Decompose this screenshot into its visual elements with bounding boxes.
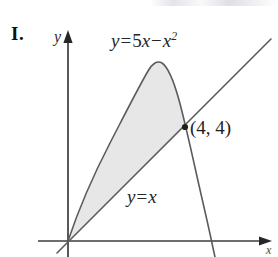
- parabola-eq-term-var: x: [163, 30, 171, 51]
- problem-number-label: I.: [11, 24, 24, 43]
- calculus-area-figure: I. y x y=5x−x2 y=x (4, 4): [0, 0, 278, 257]
- parabola-equation-label: y=5x−x2: [111, 31, 177, 50]
- line-eq-equals: =: [135, 186, 148, 207]
- parabola-eq-minus: −: [150, 30, 163, 51]
- intersection-point-label: (4, 4): [190, 118, 231, 137]
- shaded-area-region: [68, 62, 185, 241]
- parabola-eq-equals: =: [119, 30, 132, 51]
- y-axis-arrowhead: [63, 30, 72, 43]
- x-axis-label: x: [266, 244, 271, 256]
- line-eq-rhs: x: [148, 186, 156, 207]
- intersection-point-marker: [182, 124, 188, 130]
- parabola-eq-var: x: [142, 30, 150, 51]
- line-equation-label: y=x: [127, 187, 157, 206]
- y-axis-label: y: [54, 29, 61, 45]
- parabola-eq-exponent: 2: [171, 30, 177, 43]
- parabola-eq-coefficient: 5: [132, 30, 142, 51]
